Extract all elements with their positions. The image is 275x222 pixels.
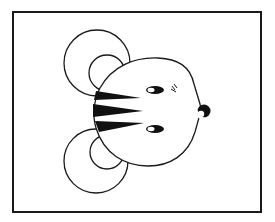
lower-eye-icon bbox=[146, 125, 164, 133]
upper-eye-icon bbox=[146, 86, 164, 94]
mouse-illustration bbox=[0, 0, 275, 222]
